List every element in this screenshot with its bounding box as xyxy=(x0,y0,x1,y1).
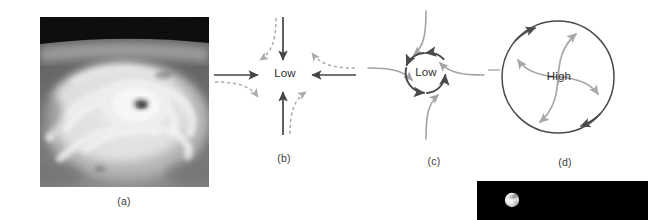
caption-panel-d: (d) xyxy=(545,156,585,168)
panel-b-pressure-gradient: Low xyxy=(210,8,360,143)
ring-arc-top xyxy=(426,53,444,59)
ring-arc-left xyxy=(407,53,424,65)
streamline-north-inflow xyxy=(414,11,426,55)
circle-arrow-bottom-right xyxy=(581,114,600,126)
caption-panel-a: (a) xyxy=(104,195,144,207)
arrow-south-dashed xyxy=(290,92,306,134)
panel-a-satellite-photo xyxy=(40,17,209,187)
panel-moon-photo xyxy=(477,181,648,220)
panel-d-anticyclonic-high: High xyxy=(488,12,634,147)
label-high-panel-d: High xyxy=(536,70,582,82)
caption-panel-b: (b) xyxy=(264,152,304,164)
hurricane-photo-svg xyxy=(40,17,209,187)
panel-c-cyclonic-low: Low xyxy=(366,8,486,143)
label-low-panel-c: Low xyxy=(404,66,448,78)
arrow-east-dashed xyxy=(312,53,355,68)
figure-container: (a) xyxy=(0,0,648,220)
caption-panel-c: (c) xyxy=(414,155,454,167)
arrow-west-dashed xyxy=(215,82,258,97)
circle-arrow-top-left xyxy=(516,28,535,40)
arrow-north-dashed xyxy=(260,18,276,60)
moon-photo-svg xyxy=(477,181,648,220)
streamline-south-inflow xyxy=(426,95,438,139)
label-low-panel-b: Low xyxy=(262,67,308,79)
